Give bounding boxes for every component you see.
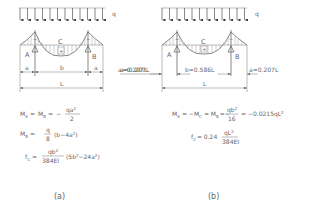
svg-text:MA= −MC= MB=−: MA= −MC= MB=− (172, 110, 230, 119)
dim-total-b: L (203, 80, 207, 87)
svg-text:(5b2−24a2): (5b2−24a2) (66, 153, 100, 161)
caption-a: (a) (54, 192, 65, 201)
svg-text:384EI: 384EI (222, 138, 239, 145)
formula-deflection-a: fC= qb2 384EI (5b2−24a2) (25, 148, 100, 165)
dim-a-left: a (25, 64, 29, 71)
dim-a-right: a (94, 64, 98, 71)
formula-moment-supports-a: MA=MB=− qa2 2 (20, 106, 80, 123)
dim-b: b (60, 64, 64, 71)
svg-text:(b−4a2): (b−4a2) (54, 131, 78, 139)
svg-text:fC= 0.24: fC= 0.24 (191, 133, 217, 142)
svg-text:qa2: qa2 (66, 106, 77, 115)
point-c-label-b: C (201, 38, 206, 46)
caption-b: (b) (208, 192, 219, 201)
support-a-label: A (25, 51, 30, 59)
dim-b-b: b=0.586L (185, 66, 215, 73)
support-b-label: B (92, 53, 96, 61)
load-label-a: q (112, 10, 116, 18)
svg-text:q: q (46, 126, 50, 134)
support-b-label-b: B (235, 53, 239, 61)
formula-moment-b: MA= −MC= MB=− qb2 16 = −0.0215qL2 (172, 106, 284, 123)
svg-text:+: + (202, 46, 206, 52)
panel-a: q + − − C A (19, 8, 161, 201)
distributed-load-b (161, 8, 247, 20)
dim-a-left-b: a=0.207L (118, 66, 148, 73)
svg-text:qb2: qb2 (227, 106, 238, 115)
svg-text:qL2: qL2 (224, 129, 234, 138)
support-a-label-b: A (167, 51, 172, 59)
two-span-beam-diagram: q + − − C A (0, 0, 322, 215)
panel-b: q + − − C A (118, 8, 284, 201)
svg-text:fC=: fC= (25, 153, 37, 162)
svg-text:MB=: MB= (20, 130, 35, 139)
svg-text:MA=MB=−: MA=MB=− (20, 110, 61, 119)
point-c-label-a: C (58, 38, 63, 46)
dim-total: L (60, 80, 64, 87)
formula-deflection-b: fC= 0.24 qL2 384EI (191, 129, 239, 146)
svg-text:384EI: 384EI (42, 157, 59, 164)
svg-text:2: 2 (70, 115, 74, 122)
svg-text:+: + (59, 48, 63, 54)
distributed-load-a (19, 8, 105, 20)
svg-text:8: 8 (46, 135, 50, 142)
formula-moment-mid-a: MB= q 8 (b−4a2) (20, 126, 78, 142)
dim-a-right-b: a=0.207L (249, 66, 279, 73)
load-label-b: q (255, 10, 259, 18)
svg-text:qb2: qb2 (48, 148, 59, 157)
svg-text:16: 16 (228, 115, 236, 122)
svg-text:= −0.0215qL2: = −0.0215qL2 (241, 110, 284, 119)
